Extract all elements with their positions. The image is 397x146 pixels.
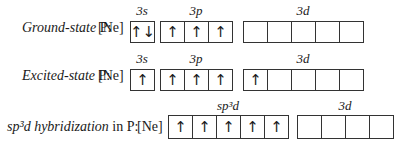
orbital-box: ↑ [244,70,268,90]
subshell-label-3s: 3s [130,3,154,19]
orbital-box [244,22,268,42]
up-arrow-icon: ↑ [246,120,259,135]
subshell-label-sp3d: sp³d [168,98,288,114]
orbital-box [340,70,363,90]
core-neon: [Ne] [98,20,124,36]
orbital-box: ↑ [217,116,241,138]
orbital-group-3d: ↑ [243,69,364,91]
up-arrow-icon: ↑ [174,120,187,135]
orbital-group-3p: ↑↑↑ [160,21,233,43]
subshell-label-3d: 3d [243,51,363,67]
orbital-box [316,22,340,42]
orbital-group-3s: ↑↓ [130,21,155,43]
orbital-box [322,116,346,138]
label-italic: sp³d hybridization [7,119,109,134]
orbital-group-3d [243,21,364,43]
label-italic: Ground-state [22,20,96,35]
orbital-box [346,116,370,138]
orbital-box: ↑ [241,116,265,138]
orbital-box [370,116,393,138]
orbital-box: ↑ [161,22,185,42]
orbital-group-3p: ↑↑↑ [160,69,233,91]
subshell-label-3s: 3s [130,51,154,67]
orbital-group-3d [297,115,394,139]
orbital-box: ↑ [193,116,217,138]
up-arrow-icon: ↑ [166,73,179,88]
up-arrow-icon: ↑ [136,73,149,88]
label-italic: Excited-state [22,68,95,83]
subshell-label-3d: 3d [243,3,363,19]
orbital-box [298,116,322,138]
orbital-box [292,70,316,90]
up-arrow-icon: ↑ [190,73,203,88]
up-arrow-icon: ↑ [190,25,203,40]
orbital-box: ↑ [209,70,232,90]
core-neon: [Ne] [98,68,124,84]
hybridization-label: sp³d hybridization in P: [7,119,138,135]
orbital-box [292,22,316,42]
orbital-box [316,70,340,90]
orbital-box [268,70,292,90]
orbital-box: ↑ [131,70,154,90]
orbital-box: ↑ [185,22,209,42]
label-rest: in P: [109,119,139,134]
orbital-box: ↑ [209,22,232,42]
orbital-box [340,22,363,42]
up-arrow-icon: ↑ [222,120,235,135]
core-neon: [Ne] [137,119,163,135]
orbital-group-sp3d: ↑↑↑↑↑ [168,115,289,139]
subshell-label-3d: 3d [297,98,393,114]
orbital-group-3s: ↑ [130,69,155,91]
subshell-label-3p: 3p [160,3,232,19]
up-arrow-icon: ↑ [198,120,211,135]
up-arrow-icon: ↑ [214,25,227,40]
paired-electron-arrows-icon: ↑↓ [130,25,155,40]
up-arrow-icon: ↑ [249,73,262,88]
orbital-box: ↑ [265,116,288,138]
subshell-label-3p: 3p [160,51,232,67]
orbital-box: ↑ [169,116,193,138]
orbital-box: ↑ [185,70,209,90]
up-arrow-icon: ↑ [270,120,283,135]
orbital-box [268,22,292,42]
up-arrow-icon: ↑ [214,73,227,88]
orbital-box: ↑↓ [131,22,154,42]
orbital-box: ↑ [161,70,185,90]
up-arrow-icon: ↑ [166,25,179,40]
